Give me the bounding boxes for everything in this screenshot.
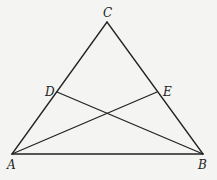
label-b: B (197, 158, 207, 172)
label-a: A (6, 158, 16, 172)
triangle-figure: C A B D E (0, 0, 217, 180)
label-e: E (162, 85, 172, 99)
label-c: C (103, 6, 112, 20)
triangle-diagram: C A B D E (0, 0, 217, 180)
label-d: D (44, 85, 55, 99)
